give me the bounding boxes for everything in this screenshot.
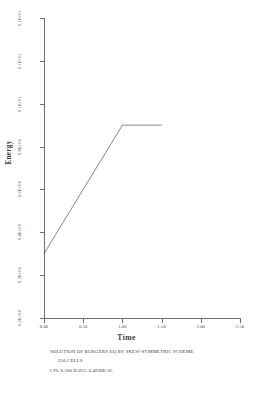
x-tick-label: 0.50 [71, 324, 95, 329]
x-tick [122, 318, 123, 323]
x-tick-label: 2.50 [228, 324, 252, 329]
y-tick-label: 0.0E+00 [17, 301, 23, 335]
caption-line-cfl: CFL 0.500 RAVG 0.4938E-05 [50, 366, 250, 375]
x-tick [240, 318, 241, 323]
x-tick-label: 0.00 [32, 324, 56, 329]
plot-area: 0.0E+000.2E+000.4E+000.6E+000.8E+000.1E+… [44, 18, 240, 318]
y-tick-label: 0.1E+01 [17, 1, 23, 35]
x-tick-label: 2.00 [189, 324, 213, 329]
x-tick [83, 318, 84, 323]
x-axis-title: Time [0, 333, 253, 342]
y-tick-label: 0.1E+01 [17, 87, 23, 121]
caption-line-cells: 256 CELLS [50, 356, 250, 365]
chart-caption: SOLUTION OF BURGERS EQ BY SKEW-SYMMETRIC… [50, 347, 250, 375]
x-tick [162, 318, 163, 323]
data-series-layer [44, 18, 240, 318]
y-tick-label: 0.1E+01 [17, 44, 23, 78]
y-tick-label: 0.8E+00 [17, 130, 23, 164]
x-axis-line [44, 318, 240, 319]
y-axis-title: Energy [4, 130, 13, 176]
x-tick-label: 1.50 [150, 324, 174, 329]
y-tick-label: 0.4E+00 [17, 215, 23, 249]
x-tick [201, 318, 202, 323]
y-tick-label: 0.2E+00 [17, 258, 23, 292]
chart-figure: 0.0E+000.2E+000.4E+000.6E+000.8E+000.1E+… [0, 0, 253, 395]
energy-series-line [44, 125, 162, 254]
y-tick-label: 0.6E+00 [17, 172, 23, 206]
x-tick [44, 318, 45, 323]
x-tick-label: 1.00 [110, 324, 134, 329]
caption-line-title: SOLUTION OF BURGERS EQ BY SKEW-SYMMETRIC… [50, 347, 250, 356]
